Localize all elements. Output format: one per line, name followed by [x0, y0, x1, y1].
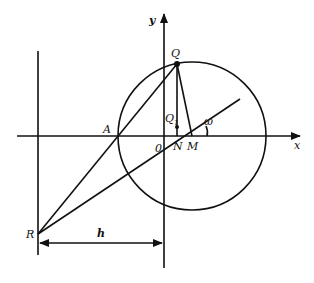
geometry-diagram: y x Q Q1 A 0 N M ω R h — [0, 0, 314, 283]
label-Q: Q — [171, 47, 180, 60]
label-omega: ω — [204, 115, 213, 128]
label-M: M — [186, 140, 199, 153]
point-Q — [174, 61, 180, 67]
label-R: R — [25, 228, 34, 241]
label-A: A — [102, 123, 111, 136]
label-origin: 0 — [155, 142, 162, 155]
line-Q-M — [177, 64, 192, 136]
label-N: N — [172, 140, 183, 153]
label-x: x — [294, 139, 301, 152]
label-h: h — [97, 227, 105, 240]
label-y: y — [148, 14, 157, 27]
